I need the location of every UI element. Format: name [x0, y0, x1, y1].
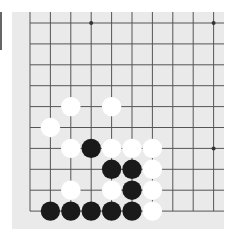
black-stone[interactable] [122, 201, 141, 220]
white-stone[interactable] [41, 118, 60, 137]
white-stone[interactable] [61, 181, 80, 200]
white-stone[interactable] [122, 139, 141, 158]
star-point [89, 21, 93, 25]
black-stone[interactable] [122, 160, 141, 179]
black-stone[interactable] [61, 201, 80, 220]
white-stone[interactable] [102, 181, 121, 200]
black-stone[interactable] [41, 201, 60, 220]
white-stone[interactable] [102, 139, 121, 158]
go-board-grid[interactable] [0, 0, 237, 236]
white-stone[interactable] [143, 181, 162, 200]
white-stone[interactable] [143, 139, 162, 158]
black-stone[interactable] [102, 160, 121, 179]
white-stone[interactable] [143, 201, 162, 220]
white-stone[interactable] [61, 139, 80, 158]
star-point [212, 21, 216, 25]
white-stone[interactable] [61, 97, 80, 116]
black-stone[interactable] [122, 181, 141, 200]
black-stone[interactable] [102, 201, 121, 220]
black-stone[interactable] [82, 201, 101, 220]
white-stone[interactable] [102, 97, 121, 116]
star-point [212, 146, 216, 150]
white-stone[interactable] [143, 160, 162, 179]
black-stone[interactable] [82, 139, 101, 158]
